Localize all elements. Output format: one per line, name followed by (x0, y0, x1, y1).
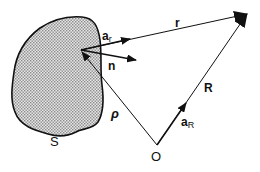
label-region-S: S (50, 135, 59, 148)
diagram-canvas (0, 0, 260, 172)
label-rho: ρ (111, 107, 119, 120)
vector-diagram: ar n r R ρ aR O S (0, 0, 260, 172)
label-R: R (204, 82, 213, 94)
label-n: n (108, 60, 115, 72)
label-origin-O: O (151, 150, 161, 163)
region-s (12, 17, 103, 136)
label-a-r: ar (102, 30, 112, 42)
label-r: r (175, 17, 180, 29)
label-a-R: aR (181, 116, 194, 128)
